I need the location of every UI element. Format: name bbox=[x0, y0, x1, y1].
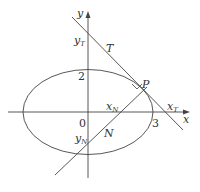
x-t-sub: T bbox=[173, 106, 179, 114]
tangent-label: T bbox=[106, 42, 115, 55]
tangent-line bbox=[72, 17, 183, 130]
diagram-canvas: y x 0 2 3 T N P yT xT xN yN bbox=[0, 0, 200, 192]
normal-line bbox=[55, 87, 147, 175]
origin-label: 0 bbox=[79, 117, 86, 130]
y-t-sub: T bbox=[80, 40, 86, 48]
x-n-label: xN bbox=[106, 100, 119, 114]
y-axis-arrow-icon bbox=[86, 11, 91, 18]
y-n-sub: N bbox=[80, 138, 88, 146]
x-tick-3: 3 bbox=[152, 117, 159, 130]
x-n-sub: N bbox=[111, 106, 119, 114]
point-p-label: P bbox=[141, 78, 150, 91]
y-n-label: yN bbox=[74, 132, 88, 146]
x-t-label: xT bbox=[167, 100, 179, 114]
x-axis-label: x bbox=[183, 113, 190, 126]
y-axis-label: y bbox=[76, 7, 84, 20]
ellipse-tangent-normal-diagram: y x 0 2 3 T N P yT xT xN yN bbox=[0, 0, 200, 192]
y-t-label: yT bbox=[73, 34, 86, 48]
normal-label: N bbox=[103, 127, 114, 140]
y-tick-2: 2 bbox=[78, 70, 85, 83]
